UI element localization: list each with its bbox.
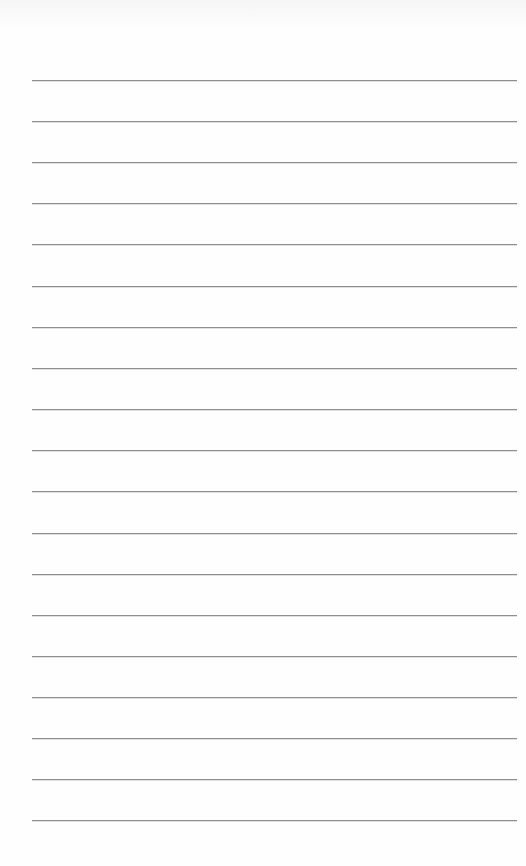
ruled-line — [32, 615, 517, 616]
ruled-line — [32, 162, 517, 163]
ruled-line — [32, 533, 517, 534]
ruled-line — [32, 368, 517, 369]
ruled-line — [32, 80, 517, 81]
ruled-line — [32, 409, 517, 410]
ruled-line — [32, 203, 517, 204]
ruled-line — [32, 820, 517, 821]
ruled-line — [32, 286, 517, 287]
ruled-line — [32, 327, 517, 328]
ruled-line — [32, 244, 517, 245]
ruled-line — [32, 656, 517, 657]
ruled-page — [0, 0, 526, 866]
ruled-line — [32, 574, 517, 575]
ruled-line — [32, 738, 517, 739]
ruled-line — [32, 779, 517, 780]
ruled-line — [32, 121, 517, 122]
ruled-line — [32, 450, 517, 451]
scan-bleed-through — [0, 0, 526, 30]
ruled-line — [32, 697, 517, 698]
ruled-line — [32, 491, 517, 492]
